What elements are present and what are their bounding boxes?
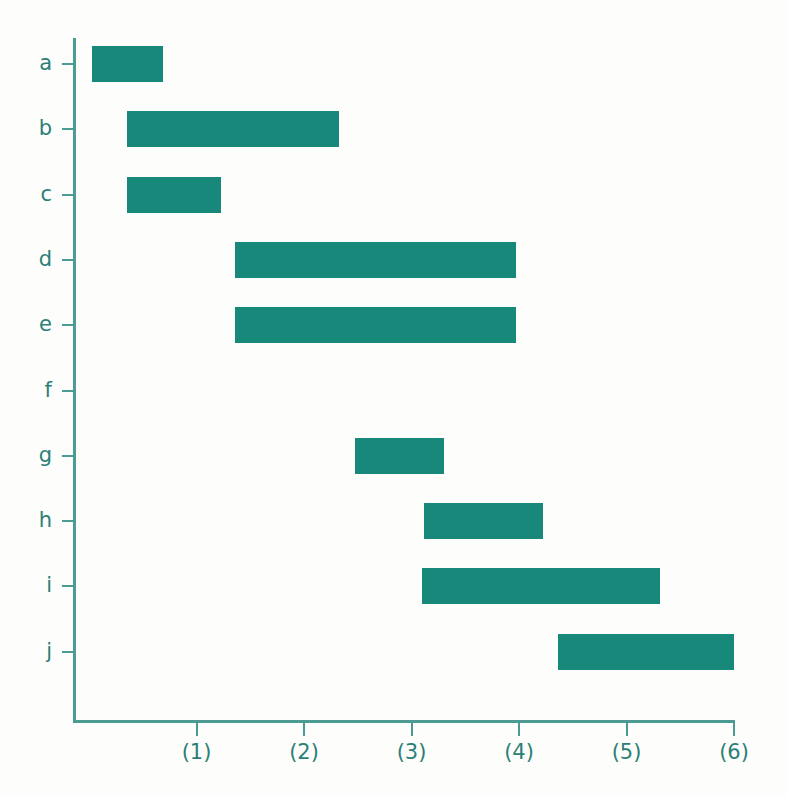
x-axis-tick xyxy=(303,723,305,736)
y-axis-tick-label-text: d xyxy=(0,249,52,270)
y-axis-tick-label-text: b xyxy=(0,118,52,139)
y-axis-tick xyxy=(62,324,74,326)
y-axis-tick-label-text: g xyxy=(0,445,52,466)
x-axis-tick xyxy=(196,723,198,736)
y-axis-tick-label-text: j xyxy=(0,641,52,662)
y-axis-line xyxy=(73,38,76,722)
x-axis-tick-label-3: (3) xyxy=(382,742,442,763)
y-axis-tick-label-text: a xyxy=(0,53,52,74)
bar-d xyxy=(235,242,516,278)
y-axis-tick xyxy=(62,455,74,457)
bar-e xyxy=(235,307,516,343)
y-axis-tick xyxy=(62,259,74,261)
y-axis-tick-label-text: c xyxy=(0,184,52,205)
bar-i xyxy=(422,568,660,604)
bar-j xyxy=(558,634,734,670)
bar-b xyxy=(127,111,340,147)
gantt-chart: abcdefghij (1)(2)(3)(4)(5)(6) xyxy=(0,0,787,796)
bar-h xyxy=(424,503,542,539)
x-axis-tick-label-5: (5) xyxy=(597,742,657,763)
y-axis-tick-label-text: h xyxy=(0,510,52,531)
x-axis-tick-label-1: (1) xyxy=(167,742,227,763)
y-axis-tick xyxy=(62,194,74,196)
x-axis-tick xyxy=(518,723,520,736)
y-axis-tick xyxy=(62,390,74,392)
bar-g xyxy=(355,438,444,474)
y-axis-tick xyxy=(62,63,74,65)
y-axis-tick-label-text: i xyxy=(0,575,52,596)
x-axis-tick xyxy=(626,723,628,736)
y-axis-tick xyxy=(62,651,74,653)
bar-a xyxy=(92,46,163,82)
y-axis-tick xyxy=(62,585,74,587)
x-axis-line xyxy=(73,720,735,723)
y-axis-tick xyxy=(62,520,74,522)
x-axis-tick-label-6: (6) xyxy=(704,742,764,763)
y-axis-tick xyxy=(62,128,74,130)
x-axis-tick xyxy=(411,723,413,736)
x-axis-tick-label-2: (2) xyxy=(274,742,334,763)
bar-c xyxy=(127,177,222,213)
y-axis-tick-label-text: f xyxy=(0,380,52,401)
y-axis-tick-label-text: e xyxy=(0,314,52,335)
x-axis-tick-label-4: (4) xyxy=(489,742,549,763)
x-axis-tick xyxy=(733,723,735,736)
